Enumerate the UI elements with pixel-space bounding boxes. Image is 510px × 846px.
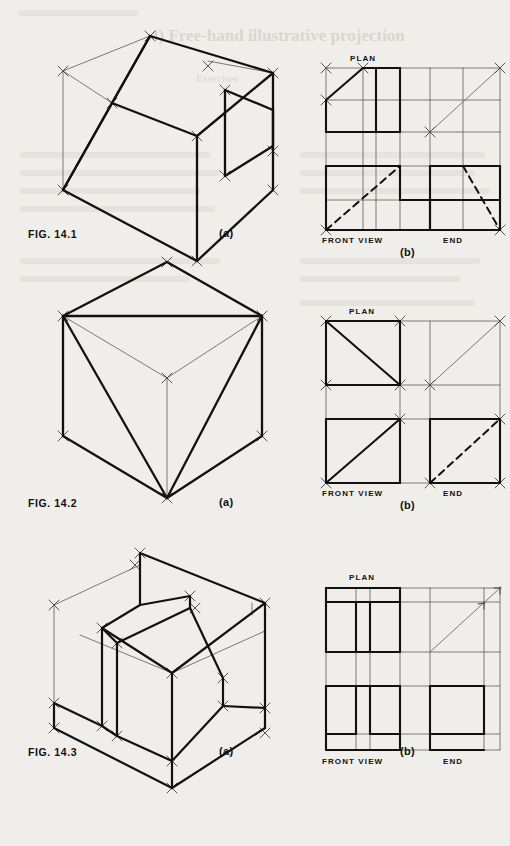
fig-14-2-view-a-label: (a) (219, 496, 233, 508)
fig-14-2-end-label: END (443, 489, 463, 498)
fig-14-2-orthographic-drawing (318, 293, 508, 493)
fig-14-1-plan-label: PLAN (350, 54, 376, 63)
fig-14-3-caption: FIG. 14.3 (28, 746, 77, 758)
figure-14-2: FIG. 14.2 (a) (0, 265, 510, 535)
fig-14-3-orthographic-drawing (318, 560, 508, 760)
fig-14-1-view-a-label: (a) (219, 227, 233, 239)
fig-14-2-isometric-drawing (30, 265, 320, 515)
fig-14-3-plan-label: PLAN (349, 573, 375, 582)
figure-14-1: FIG. 14.1 (a) (0, 0, 510, 265)
fig-14-1-view-b-label: (b) (400, 246, 415, 258)
fig-14-3-view-a-label: (a) (219, 745, 233, 757)
fig-14-3-isometric-drawing (22, 543, 322, 803)
fig-14-3-view-b-label: (b) (400, 745, 415, 757)
figure-14-3: FIG. 14.3 (a) (0, 535, 510, 815)
fig-14-2-plan-label: PLAN (349, 307, 375, 316)
fig-14-1-caption: FIG. 14.1 (28, 228, 77, 240)
fig-14-3-end-label: END (443, 757, 463, 766)
fig-14-1-front-view-label: FRONT VIEW (322, 236, 383, 245)
drawing-page: 4) Free-hand illustrative projection Exe… (0, 0, 510, 846)
fig-14-2-view-b-label: (b) (400, 499, 415, 511)
fig-14-1-end-label: END (443, 236, 463, 245)
fig-14-3-front-view-label: FRONT VIEW (322, 757, 383, 766)
fig-14-2-caption: FIG. 14.2 (28, 497, 77, 509)
fig-14-2-front-view-label: FRONT VIEW (322, 489, 383, 498)
fig-14-1-orthographic-drawing (318, 40, 508, 240)
